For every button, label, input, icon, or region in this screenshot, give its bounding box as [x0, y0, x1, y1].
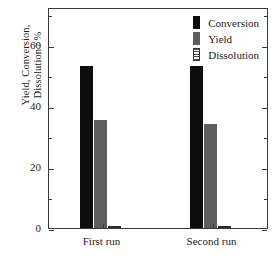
y-tick-minor [49, 199, 52, 200]
y-tick-minor [49, 16, 52, 17]
legend-label-dissolution: Dissolution [208, 49, 259, 61]
y-tick-label: 60 [15, 40, 41, 51]
y-tick-major [49, 108, 54, 109]
x-tick [213, 224, 214, 228]
legend-item-yield: Yield [193, 31, 259, 46]
plot-area: Conversion Yield Dissolution [48, 8, 268, 229]
y-tick-minor-right [264, 199, 267, 200]
y-tick-major-right [262, 108, 267, 109]
y-tick-major-right [262, 230, 267, 231]
chart-legend: Conversion Yield Dissolution [193, 15, 259, 62]
bar-yield-1 [204, 124, 217, 228]
bar-dissolution-1 [218, 226, 231, 228]
bar-dissolution-0 [108, 226, 121, 228]
x-tick-label: First run [57, 235, 147, 247]
y-tick-minor [49, 77, 52, 78]
bar-yield-0 [94, 120, 107, 228]
y-tick-label: 20 [15, 162, 41, 173]
y-tick-label: 40 [15, 101, 41, 112]
bar-conversion-0 [80, 66, 93, 228]
y-tick-major-right [262, 47, 267, 48]
y-axis-title-line-2: Dissolution / % [32, 25, 45, 106]
y-tick-minor-right [264, 138, 267, 139]
x-tick-label: Second run [167, 235, 257, 247]
y-tick-label: 0 [15, 223, 41, 234]
y-tick-major [49, 230, 54, 231]
legend-swatch-dissolution-icon [193, 48, 200, 61]
legend-item-conversion: Conversion [193, 15, 259, 30]
y-tick-minor-right [264, 77, 267, 78]
bar-conversion-1 [190, 66, 203, 228]
chart-figure: Yield, Conversion, Dissolution / % Conve… [0, 0, 274, 272]
y-tick-major-right [262, 169, 267, 170]
legend-label-conversion: Conversion [208, 17, 259, 29]
y-tick-minor [49, 138, 52, 139]
legend-swatch-conversion-icon [193, 16, 200, 29]
y-tick-major [49, 169, 54, 170]
legend-label-yield: Yield [208, 33, 232, 45]
y-axis-title-line-1: Yield, Conversion, [20, 25, 33, 106]
y-tick-major [49, 47, 54, 48]
legend-swatch-yield-icon [193, 32, 200, 45]
x-tick [103, 224, 104, 228]
y-axis-title: Yield, Conversion, Dissolution / % [15, 0, 49, 150]
y-tick-minor-right [264, 16, 267, 17]
legend-item-dissolution: Dissolution [193, 47, 259, 62]
